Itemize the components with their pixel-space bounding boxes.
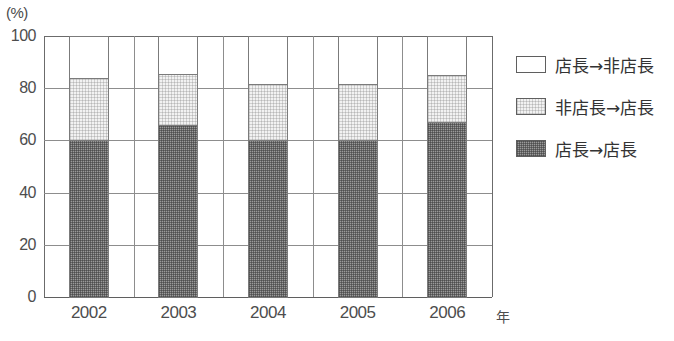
bar-group-2002 [69,36,109,297]
legend-item-3[interactable]: 店長→店長 [516,136,637,161]
bar-segment-2003-series3 [158,36,198,75]
x-tick-label-2004: 2004 [228,303,308,323]
bar-segment-2006-series3 [427,36,467,76]
y-tick-label-80: 80 [0,79,36,97]
bar-segment-2002-series2 [69,78,109,142]
bar-group-2003 [158,36,198,297]
bar-segment-2005-series3 [338,36,378,85]
x-tick-label-2005: 2005 [318,303,398,323]
bar-segment-2002-series3 [69,36,109,79]
bar-group-2006 [427,36,467,297]
y-tick-label-40: 40 [0,184,36,202]
y-tick-label-0: 0 [0,288,36,306]
plot-frame-right-edge [492,36,493,297]
bar-group-2004 [248,36,288,297]
bar-segment-2005-series1 [338,140,378,298]
legend-swatch-light [516,98,546,115]
legend-label-2: 非店長→店長 [555,94,654,119]
bar-segment-2004-series3 [248,36,288,85]
stacked-bar-chart: (%) 020406080100 20022003200420052006 年 … [0,0,674,341]
bar-segment-2004-series1 [248,140,288,298]
gridline-x-3 [313,36,314,297]
plot-area [44,36,492,297]
legend-swatch-white [516,56,546,73]
bar-segment-2005-series2 [338,84,378,141]
legend-swatch-dark [516,140,546,157]
gridline-x-4 [402,36,403,297]
bar-segment-2004-series2 [248,84,288,141]
legend-item-2[interactable]: 非店長→店長 [516,94,654,119]
bar-segment-2003-series1 [158,125,198,298]
y-axis-unit-label: (%) [6,4,28,21]
bar-segment-2006-series2 [427,75,467,123]
legend-label-1: 店長→非店長 [555,52,654,77]
y-tick-label-20: 20 [0,236,36,254]
gridline-x-1 [134,36,135,297]
bar-segment-2002-series1 [69,140,109,298]
x-axis-unit-label: 年 [496,306,510,326]
legend-label-3: 店長→店長 [555,136,637,161]
y-tick-label-100: 100 [0,27,36,45]
y-tick-label-60: 60 [0,131,36,149]
legend-item-1[interactable]: 店長→非店長 [516,52,654,77]
x-tick-label-2003: 2003 [138,303,218,323]
bar-segment-2006-series1 [427,122,467,298]
bar-group-2005 [338,36,378,297]
gridline-x-2 [223,36,224,297]
bar-segment-2003-series2 [158,74,198,126]
x-tick-label-2002: 2002 [49,303,129,323]
x-tick-label-2006: 2006 [407,303,487,323]
